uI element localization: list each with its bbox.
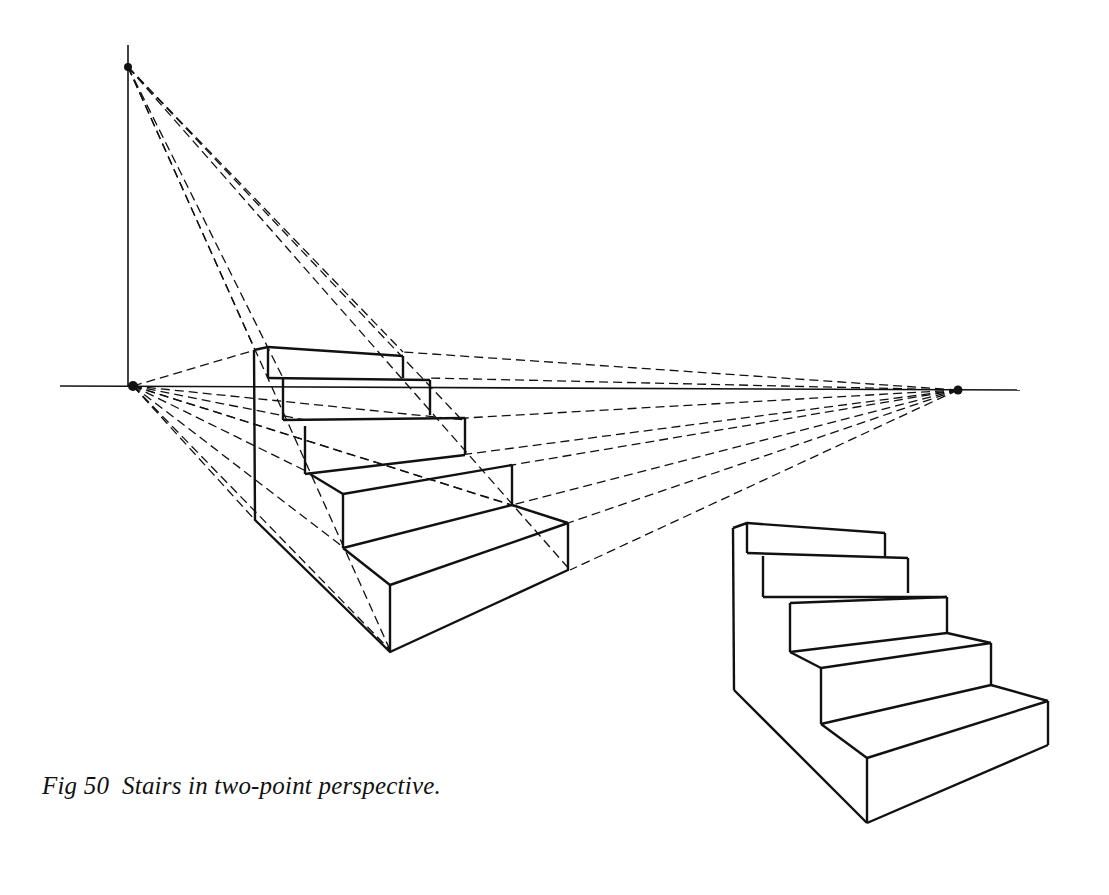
perspective-diagram <box>0 0 1109 895</box>
vp-right <box>954 386 963 395</box>
vp-left <box>128 381 138 391</box>
vp-vertical <box>124 63 132 71</box>
horizon-and-axis <box>60 45 1020 390</box>
construction-stairs <box>254 347 568 652</box>
finished-stairs <box>733 523 1048 823</box>
horizon-line <box>60 386 1020 390</box>
construction-lines <box>128 67 958 650</box>
vanishing-points <box>124 63 963 395</box>
figure-caption: Fig 50 Stairs in two-point perspective. <box>42 772 441 800</box>
